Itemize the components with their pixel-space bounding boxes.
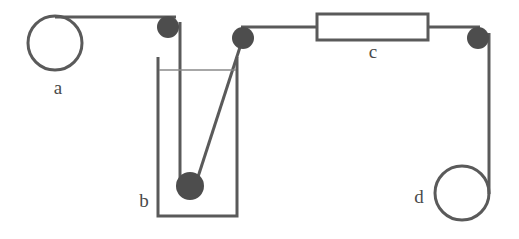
label-a: a	[54, 77, 63, 98]
submerged-ball	[176, 172, 204, 200]
label-b: b	[139, 190, 149, 211]
pulley-a-circle	[28, 16, 82, 70]
string-group	[55, 17, 489, 194]
string-ball-to-node2	[197, 44, 241, 180]
pulley-d-circle	[435, 166, 489, 220]
label-d: d	[414, 186, 424, 207]
node-1-filled-circle	[157, 16, 179, 38]
node-3-filled-circle	[467, 27, 489, 49]
block-c-rectangle	[317, 14, 428, 40]
label-c: c	[369, 41, 377, 62]
apparatus-svg-canvas: a b c d	[0, 0, 519, 239]
node-2-filled-circle	[232, 27, 254, 49]
apparatus-diagram: a b c d	[0, 0, 519, 239]
